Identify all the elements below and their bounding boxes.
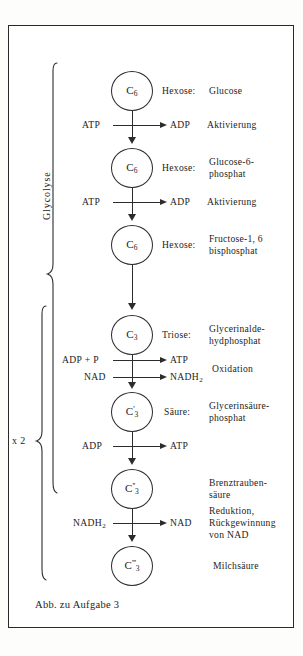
node-glucose-class: Hexose: bbox=[162, 85, 196, 97]
brace-x2 bbox=[34, 305, 50, 587]
node-glucose-6-phosphat-class: Hexose: bbox=[162, 162, 196, 174]
step-4-product-nadh2-sub: 2 bbox=[199, 376, 203, 384]
node-fructose-1-6-bisphosphat-class: Hexose: bbox=[162, 239, 196, 251]
arrow-2-head bbox=[128, 214, 136, 221]
node-glycerinaldehydphosphat-class: Triose: bbox=[162, 329, 191, 341]
node-brenztraubensaeure-subscript: 3 bbox=[135, 487, 139, 496]
step-6-product-nad: NAD bbox=[170, 517, 192, 529]
step-4-product-nadh2: NADH2 bbox=[170, 371, 203, 387]
node-glycerinsaeure-subscript: 3 bbox=[134, 410, 138, 419]
node-fructose-1-6-bisphosphat: C6 bbox=[111, 225, 153, 265]
step-6-process-line2: Rückgewinnung bbox=[209, 517, 276, 529]
arrow-6-head bbox=[128, 535, 136, 542]
step-5-cofactor-line bbox=[113, 446, 164, 447]
node-milchsaeure: C'''3 bbox=[111, 546, 153, 586]
step-2-cofactor-arrowhead bbox=[160, 199, 167, 205]
node-glycerinsaeurephosphat-formula: C'3 bbox=[126, 405, 139, 419]
node-brenztraubensaeure-name-line1: Brenztrauben- bbox=[209, 477, 267, 489]
arrow-3-shaft bbox=[132, 265, 133, 305]
figure-caption: Abb. zu Aufgabe 3 bbox=[35, 599, 119, 610]
node-fructose-1-6-bisphosphat-formula: C6 bbox=[126, 239, 138, 252]
step-2-cofactor-line bbox=[113, 202, 164, 203]
step-6-process-line3: von NAD bbox=[209, 529, 249, 541]
node-brenztraubensaeure-formula: C''3 bbox=[125, 482, 139, 496]
node-glycerinaldehydphosphat-name-line1: Glycerinalde- bbox=[209, 323, 265, 335]
node-glucose-6-phosphat: C6 bbox=[111, 148, 153, 188]
node-milchsaeure-formula: C'''3 bbox=[124, 559, 139, 573]
step-1-cofactor-arrowhead bbox=[160, 122, 167, 128]
brace-glycolyse-label: Glycolyse bbox=[41, 171, 52, 220]
node-brenztraubensaeure-name-line2: säure bbox=[209, 489, 231, 501]
step-5-product-atp: ATP bbox=[170, 440, 188, 452]
node-glycerinaldehydphosphat-formula: C3 bbox=[126, 329, 138, 342]
arrow-3-head bbox=[128, 303, 136, 310]
figure-page: Glycolyse x 2 C6 Hexose: Glucose ATP ADP… bbox=[0, 0, 303, 656]
arrow-5-head bbox=[128, 458, 136, 465]
node-glycerinsaeurephosphat-name-line2: phosphat bbox=[209, 412, 246, 424]
step-6-cofactor-arrowhead bbox=[160, 520, 167, 526]
step-4-reactant-adp-p: ADP + P bbox=[62, 354, 99, 366]
step-4-cofactor-line-lower bbox=[113, 377, 164, 378]
node-fructose-subscript: 6 bbox=[134, 243, 138, 252]
node-glycerinaldehydphosphat: C3 bbox=[111, 315, 153, 355]
node-glycerinsaeurephosphat: C'3 bbox=[111, 392, 153, 432]
arrow-4-head bbox=[128, 382, 136, 389]
node-brenztraubensaeure: C''3 bbox=[111, 469, 153, 509]
step-1-cofactor-line bbox=[113, 125, 164, 126]
node-glycerinaldehyd-subscript: 3 bbox=[134, 333, 138, 342]
step-4-process: Oxidation bbox=[212, 363, 253, 375]
step-5-reactant-adp: ADP bbox=[82, 440, 102, 452]
step-4-cofactor-line-upper bbox=[113, 360, 164, 361]
step-2-process: Aktivierung bbox=[207, 196, 257, 208]
node-glucose-subscript: 6 bbox=[134, 89, 138, 98]
node-glucose-6-phosphat-formula: C6 bbox=[126, 162, 138, 175]
brace-x2-label: x 2 bbox=[12, 435, 26, 446]
step-4-product-nadh2-main: NADH bbox=[170, 371, 199, 382]
node-glucose-6-phosphat-name-line2: phosphat bbox=[209, 168, 246, 180]
node-fructose-1-6-bisphosphat-name-line2: bisphosphat bbox=[209, 245, 258, 257]
step-5-cofactor-arrowhead bbox=[160, 443, 167, 449]
node-milchsaeure-name: Milchsäure bbox=[213, 560, 259, 572]
step-4-product-atp: ATP bbox=[170, 354, 188, 366]
step-6-reactant-nadh2-sub: 2 bbox=[102, 522, 106, 530]
step-1-product-adp: ADP bbox=[170, 119, 190, 131]
node-glucose-6-phosphat-name-line1: Glucose-6- bbox=[209, 156, 254, 168]
step-2-reactant-atp: ATP bbox=[82, 196, 100, 208]
node-milchsaeure-subscript: 3 bbox=[136, 564, 140, 573]
node-glucose-6-phosphat-subscript: 6 bbox=[134, 166, 138, 175]
node-glycerinaldehydphosphat-name-line2: hydphosphat bbox=[209, 335, 261, 347]
step-4-cofactor-arrowhead-upper bbox=[160, 357, 167, 363]
node-glycerinsaeurephosphat-name-line1: Glycerinsäure- bbox=[209, 400, 270, 412]
step-1-reactant-atp: ATP bbox=[82, 119, 100, 131]
node-glycerinsaeurephosphat-class: Säure: bbox=[164, 406, 190, 418]
step-4-cofactor-arrowhead-lower bbox=[160, 374, 167, 380]
step-1-process: Aktivierung bbox=[207, 119, 257, 131]
step-6-process-line1: Reduktion, bbox=[209, 505, 254, 517]
step-6-reactant-nadh2: NADH2 bbox=[73, 517, 106, 533]
node-glucose-name: Glucose bbox=[209, 85, 242, 97]
step-4-reactant-nad: NAD bbox=[84, 371, 106, 383]
step-6-cofactor-line bbox=[113, 523, 164, 524]
node-glucose: C6 bbox=[111, 71, 153, 111]
node-fructose-1-6-bisphosphat-name-line1: Fructose-1, 6 bbox=[209, 233, 263, 245]
step-2-product-adp: ADP bbox=[170, 196, 190, 208]
step-6-reactant-nadh2-main: NADH bbox=[73, 517, 102, 528]
node-glucose-formula: C6 bbox=[126, 85, 138, 98]
arrow-1-head bbox=[128, 137, 136, 144]
